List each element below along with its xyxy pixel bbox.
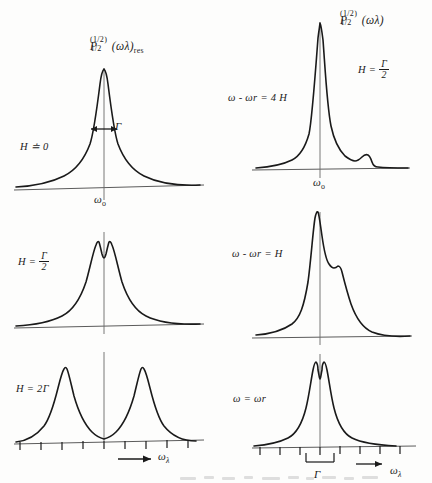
panel-left-bottom-axis-label: ωλ — [158, 450, 170, 465]
gamma-over-two-fraction: Γ 2 — [39, 251, 49, 272]
panel-right-top-condition: ω - ωr = 4 H — [228, 92, 287, 103]
panel-left-bottom — [8, 348, 208, 463]
panel-right-middle-plot — [230, 210, 425, 345]
lineshape-curve — [16, 69, 200, 187]
panel-right-bottom — [230, 352, 425, 477]
panel-right-middle-condition: ω - ωr = H — [232, 248, 283, 259]
x-axis-ticks — [20, 440, 188, 450]
left-column-title: P (1/2) 1/2 (ωλ)res — [90, 40, 144, 55]
lineshape-curve — [254, 362, 396, 446]
panel-left-middle — [8, 228, 208, 338]
panel-right-top-center-label: ωo — [313, 176, 325, 191]
x-axis-arrow-head — [375, 461, 382, 467]
lineshape-curve — [256, 212, 410, 337]
panel-right-bottom-condition: ω = ωr — [233, 393, 266, 404]
panel-right-bottom-axis-label: ωλ — [390, 464, 402, 479]
figure-canvas: P (1/2) 1/2 (ωλ)res H ≐ 0 Γ ωo — [0, 0, 432, 483]
center-label-subscript: o — [321, 182, 325, 191]
panel-right-middle — [230, 210, 425, 345]
x-axis-line — [14, 440, 204, 444]
panel-left-top-condition: H ≐ 0 — [20, 140, 49, 152]
left-title-argument: (ωλ) — [112, 40, 134, 52]
left-title-res-subscript: res — [134, 46, 144, 55]
panel-left-top-plot — [8, 58, 208, 203]
lineshape-curve — [16, 368, 196, 443]
panel-left-top-width-label: Γ — [115, 120, 122, 132]
x-axis-arrow-head — [143, 456, 151, 463]
panel-left-middle-plot — [8, 228, 208, 338]
panel-left-bottom-condition: H = 2Γ — [16, 383, 49, 394]
x-axis-line — [14, 185, 204, 190]
axis-label-subscript: λ — [398, 470, 402, 479]
panel-left-top-center-label: ωo — [94, 193, 106, 208]
center-label-subscript: o — [102, 199, 106, 208]
panel-left-middle-condition: H = Γ 2 — [18, 252, 49, 273]
panel-right-bottom-width-label: Γ — [314, 468, 321, 480]
x-axis-line — [14, 324, 204, 328]
left-title-p-symbol: P (1/2) 1/2 — [90, 40, 112, 52]
panel-right-bottom-plot — [230, 352, 425, 477]
panel-left-top — [8, 58, 208, 203]
panel-left-bottom-plot — [8, 348, 208, 463]
axis-label-subscript: λ — [166, 456, 170, 465]
